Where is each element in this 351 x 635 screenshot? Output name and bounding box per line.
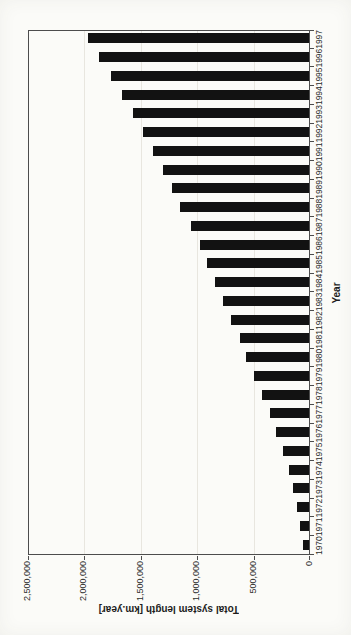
- x-tick-label-1976: 1976: [314, 424, 324, 443]
- x-tick-mark: [310, 367, 314, 368]
- bar-1978: [262, 390, 309, 400]
- bar-1995: [111, 71, 309, 81]
- x-tick-label-1993: 1993: [314, 105, 324, 124]
- x-tick-label-1977: 1977: [314, 405, 324, 424]
- x-tick-mark: [310, 460, 314, 461]
- x-tick-label-1987: 1987: [314, 217, 324, 236]
- y-tick-mark: [254, 556, 255, 560]
- x-tick-label-1975: 1975: [314, 442, 324, 461]
- bar-1988: [180, 202, 309, 212]
- bar-1980: [246, 352, 309, 362]
- bar-1984: [215, 277, 309, 287]
- y-tick-mark: [197, 556, 198, 560]
- bar-1991: [153, 146, 309, 156]
- rotated-bar-chart: 0500,0001,000,0001,500,0002,000,0002,500…: [0, 0, 351, 635]
- bar-1977: [270, 408, 309, 418]
- x-tick-mark: [310, 310, 314, 311]
- y-tick-mark: [28, 556, 29, 560]
- x-tick-mark: [310, 48, 314, 49]
- x-tick-label-1973: 1973: [314, 480, 324, 499]
- bar-1994: [122, 90, 309, 100]
- x-tick-mark: [310, 85, 314, 86]
- plot-area: [28, 30, 310, 555]
- x-tick-label-1970: 1970: [314, 536, 324, 555]
- x-tick-mark: [310, 67, 314, 68]
- x-tick-mark: [310, 273, 314, 274]
- bar-1990: [163, 165, 309, 175]
- x-axis-title: Year: [331, 282, 342, 303]
- x-tick-mark: [310, 535, 314, 536]
- y-tick-label: 0: [304, 561, 315, 631]
- x-tick-label-1996: 1996: [314, 49, 324, 68]
- y-tick-mark: [141, 556, 142, 560]
- x-tick-mark: [310, 123, 314, 124]
- bar-1992: [143, 127, 309, 137]
- bar-1972: [297, 502, 309, 512]
- x-tick-label-1986: 1986: [314, 236, 324, 255]
- x-tick-mark: [310, 404, 314, 405]
- y-axis-title: Total system length [km.year]: [28, 604, 310, 615]
- y-tick-mark: [309, 556, 310, 560]
- x-tick-label-1992: 1992: [314, 124, 324, 143]
- bar-1985: [207, 258, 309, 268]
- x-tick-label-1979: 1979: [314, 367, 324, 386]
- x-tick-label-1982: 1982: [314, 311, 324, 330]
- bar-1981: [240, 333, 309, 343]
- x-tick-label-1995: 1995: [314, 67, 324, 86]
- bar-1970: [303, 540, 309, 550]
- bar-1979: [254, 371, 309, 381]
- y-tick-label: 500,000: [248, 561, 259, 631]
- y-tick-label: 2,000,000: [78, 561, 89, 631]
- bar-1996: [99, 52, 309, 62]
- x-tick-label-1981: 1981: [314, 330, 324, 349]
- y-tick-label: 2,500,000: [22, 561, 33, 631]
- x-tick-mark: [310, 254, 314, 255]
- x-tick-label-1984: 1984: [314, 274, 324, 293]
- y-tick-label: 1,500,000: [135, 561, 146, 631]
- y-tick-mark: [84, 556, 85, 560]
- bar-1982: [231, 315, 309, 325]
- bar-1973: [293, 483, 309, 493]
- x-tick-mark: [310, 385, 314, 386]
- x-tick-mark: [310, 30, 314, 31]
- x-tick-label-1971: 1971: [314, 517, 324, 536]
- bar-1986: [200, 240, 309, 250]
- x-tick-mark: [310, 517, 314, 518]
- bar-1976: [276, 427, 309, 437]
- bar-1997: [88, 33, 309, 43]
- x-tick-mark: [310, 198, 314, 199]
- x-tick-label-1994: 1994: [314, 86, 324, 105]
- x-tick-mark: [310, 442, 314, 443]
- y-tick-label: 1,000,000: [191, 561, 202, 631]
- x-tick-mark: [310, 160, 314, 161]
- x-tick-mark: [310, 235, 314, 236]
- bar-1993: [133, 108, 309, 118]
- x-tick-label-1997: 1997: [314, 30, 324, 49]
- x-tick-mark: [310, 179, 314, 180]
- x-tick-mark: [310, 348, 314, 349]
- x-tick-label-1989: 1989: [314, 180, 324, 199]
- bar-1989: [172, 183, 309, 193]
- x-tick-mark: [310, 554, 314, 555]
- x-tick-label-1980: 1980: [314, 349, 324, 368]
- x-tick-mark: [310, 479, 314, 480]
- x-tick-mark: [310, 498, 314, 499]
- x-tick-label-1978: 1978: [314, 386, 324, 405]
- x-tick-mark: [310, 292, 314, 293]
- x-tick-mark: [310, 217, 314, 218]
- x-tick-mark: [310, 329, 314, 330]
- x-tick-mark: [310, 423, 314, 424]
- x-tick-label-1974: 1974: [314, 461, 324, 480]
- x-tick-label-1983: 1983: [314, 292, 324, 311]
- bar-1974: [289, 465, 309, 475]
- bar-1983: [223, 296, 309, 306]
- x-tick-label-1985: 1985: [314, 255, 324, 274]
- x-tick-mark: [310, 142, 314, 143]
- scanned-chart-page: 0500,0001,000,0001,500,0002,000,0002,500…: [0, 0, 351, 635]
- value-gridline: [84, 31, 85, 554]
- x-tick-label-1990: 1990: [314, 161, 324, 180]
- x-tick-label-1972: 1972: [314, 499, 324, 518]
- bar-1971: [300, 521, 309, 531]
- bar-1975: [283, 446, 310, 456]
- x-tick-mark: [310, 104, 314, 105]
